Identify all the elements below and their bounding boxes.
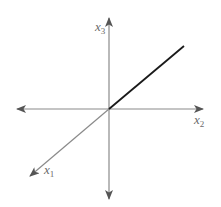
x1-label-subscript: 1 xyxy=(50,169,55,179)
x3-axis-label: x3 xyxy=(95,20,105,36)
x1-axis xyxy=(30,109,109,176)
x1-axis-label: x1 xyxy=(44,163,54,179)
coordinate-diagram xyxy=(0,0,221,207)
x3-label-subscript: 3 xyxy=(101,26,106,36)
highlighted-line xyxy=(109,46,184,109)
x2-label-subscript: 2 xyxy=(200,119,205,129)
x2-axis-label: x2 xyxy=(194,113,204,129)
